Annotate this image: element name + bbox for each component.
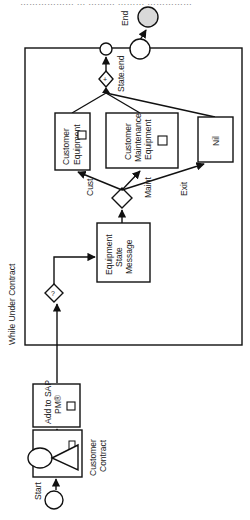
customer-equipment-line1: Customer xyxy=(61,128,71,165)
subprocess-marker-icon xyxy=(78,131,86,139)
customer-contract-line1: Customer xyxy=(88,439,98,476)
bpmn-diagram: ……………… … ……… ……… …………… While Under Contr… xyxy=(0,0,250,520)
esm-line1: Equipment xyxy=(104,234,114,275)
loop-gateway-symbol: ? xyxy=(51,290,55,297)
end-label: End xyxy=(120,11,130,26)
join-gateway-symbol: + xyxy=(103,76,107,83)
add-sap-line1: Add to SAP xyxy=(43,380,53,424)
flow-label-cust: Cust xyxy=(85,178,95,196)
flow-label-maint: Maint xyxy=(143,177,153,198)
customer-contract-line2: Contract xyxy=(98,439,108,472)
state-end-event[interactable] xyxy=(100,43,112,55)
subprocess-marker-icon xyxy=(67,402,75,410)
end-event[interactable] xyxy=(138,7,158,27)
header-cut-text: ……………… … ……… ……… …………… xyxy=(20,0,192,7)
add-sap-line2: PM® xyxy=(53,394,63,414)
esm-line2: State xyxy=(114,247,124,267)
nil-label: Nil xyxy=(211,136,221,146)
esm-line3: Message xyxy=(124,239,134,274)
loop-label: While Under Contract xyxy=(7,263,17,345)
customer-equipment-line2: Equipment xyxy=(72,124,82,165)
loop-subprocess[interactable] xyxy=(25,48,242,345)
cme-line3: Equipment xyxy=(143,119,153,160)
split-gateway[interactable] xyxy=(112,188,132,208)
start-event[interactable] xyxy=(45,491,63,509)
flow-label-exit: Exit xyxy=(179,181,189,196)
contract-icon-circle xyxy=(28,448,52,468)
cme-line2: Maintenance xyxy=(133,113,143,162)
loop-exit-event[interactable] xyxy=(130,39,150,59)
start-label: Start xyxy=(33,481,43,500)
state-end-label: State.end xyxy=(116,55,126,92)
cme-line1: Customer xyxy=(123,123,133,160)
subprocess-marker-icon xyxy=(158,136,167,145)
